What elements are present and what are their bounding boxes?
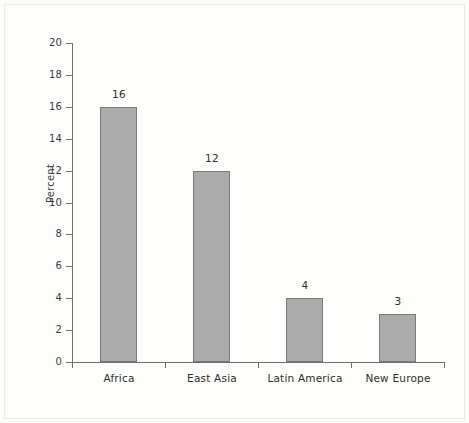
y-axis-tick-label-row: 12 [0, 165, 62, 177]
y-axis-tick-label: 4 [26, 292, 62, 303]
y-axis-tick-label-row: 0 [0, 356, 62, 368]
x-axis-tick [351, 362, 352, 368]
y-axis-tick [66, 330, 73, 331]
y-axis-tick [66, 43, 73, 44]
y-axis-tick [66, 107, 73, 108]
y-axis-tick [66, 203, 73, 204]
y-axis-tick [66, 75, 73, 76]
y-axis-tick-label-row: 14 [0, 133, 62, 145]
x-axis-tick [258, 362, 259, 368]
y-axis-tick-label: 6 [26, 260, 62, 271]
x-axis-category-label: New Europe [343, 372, 453, 384]
bar-value-label: 16 [89, 88, 149, 100]
y-axis-tick-label: 14 [26, 133, 62, 144]
y-axis-tick-label-row: 20 [0, 37, 62, 49]
y-axis-tick-label-row: 16 [0, 101, 62, 113]
bar-value-label: 3 [368, 295, 428, 307]
y-axis-tick-label-row: 8 [0, 228, 62, 240]
bar [100, 107, 137, 362]
y-axis-tick-label-row: 6 [0, 260, 62, 272]
y-axis-tick [66, 139, 73, 140]
y-axis-tick-label: 20 [26, 37, 62, 48]
y-axis-tick-label: 2 [26, 324, 62, 335]
y-axis-tick-label-row: 10 [0, 197, 62, 209]
y-axis-tick-label: 8 [26, 228, 62, 239]
figure: Percent 02468101214161820 161243 AfricaE… [0, 0, 469, 423]
x-axis-tick [165, 362, 166, 368]
bar [379, 314, 416, 362]
y-axis-tick-label: 16 [26, 101, 62, 112]
y-axis-tick-label: 10 [26, 197, 62, 208]
y-axis-tick [66, 171, 73, 172]
y-axis-tick [66, 234, 73, 235]
y-axis-tick-label: 12 [26, 165, 62, 176]
y-axis-tick [66, 298, 73, 299]
y-axis-tick-label-row: 2 [0, 324, 62, 336]
y-axis-tick-label: 0 [26, 356, 62, 367]
bar-value-label: 4 [275, 279, 335, 291]
bar-chart-plot: Percent 02468101214161820 161243 AfricaE… [0, 0, 469, 423]
y-axis-tick-label-row: 4 [0, 292, 62, 304]
y-axis-tick-label-row: 18 [0, 69, 62, 81]
bar [193, 171, 230, 362]
y-axis-tick-label: 18 [26, 69, 62, 80]
y-axis-tick [66, 266, 73, 267]
x-axis-tick [72, 362, 73, 368]
bar-value-label: 12 [182, 152, 242, 164]
bar [286, 298, 323, 362]
x-axis-tick [444, 362, 445, 368]
